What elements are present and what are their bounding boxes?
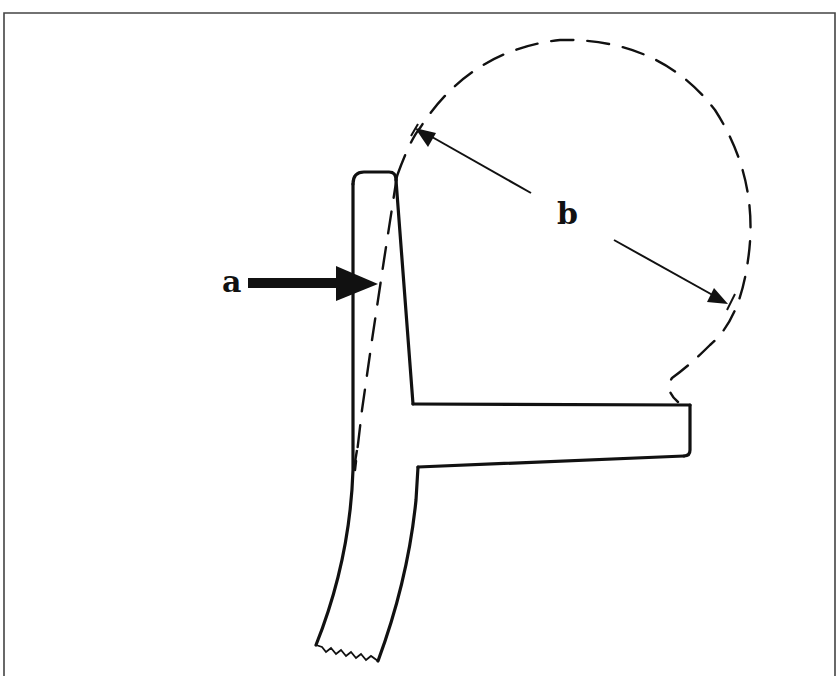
label-b: b	[557, 196, 578, 231]
trunk-left-edge	[316, 184, 353, 645]
arrow-b-lower-shaft	[614, 240, 718, 298]
arrow-b-upper-head	[415, 128, 436, 147]
branch-bottom-edge	[418, 456, 684, 467]
arrow-a-head	[336, 266, 378, 301]
branch-top-edge	[413, 404, 690, 405]
arrow-b-lower-head	[707, 288, 728, 304]
arrow-b-upper-shaft	[425, 133, 531, 193]
cut-line-dashed	[355, 176, 397, 470]
branch-end	[684, 405, 690, 456]
trunk-broken-end	[316, 645, 378, 661]
trunk-right-upper-edge	[396, 180, 413, 404]
trunk-right-lower-edge	[378, 467, 418, 661]
label-a: a	[222, 264, 241, 299]
diagram-canvas: a b	[0, 0, 837, 676]
trunk-branch-outline	[316, 172, 690, 661]
trunk-top-cap	[353, 172, 396, 184]
arrow-b-lower-tick	[727, 294, 735, 310]
arrow-a-shaft	[248, 278, 340, 288]
arrow-a	[248, 266, 378, 301]
